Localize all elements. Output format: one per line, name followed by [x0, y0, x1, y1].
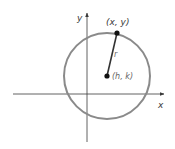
center-label: (h, k)	[112, 72, 133, 81]
y-axis-label: y	[76, 13, 83, 23]
center-point	[104, 73, 109, 78]
radius-label: r	[114, 50, 118, 59]
x-axis-label: x	[157, 100, 164, 110]
circle-diagram: y x (x, y) r (h, k)	[0, 0, 175, 149]
point-label: (x, y)	[106, 17, 129, 27]
point-on-circle	[114, 30, 119, 35]
